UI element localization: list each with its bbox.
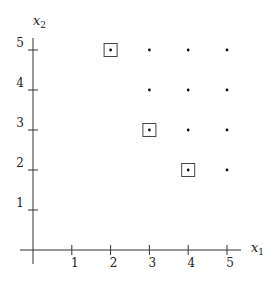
data-point bbox=[226, 129, 229, 132]
data-point bbox=[148, 89, 151, 92]
y-axis-label: x2 bbox=[33, 13, 46, 30]
x-tick-label: 4 bbox=[187, 256, 195, 270]
data-point bbox=[187, 49, 190, 52]
data-point bbox=[226, 49, 229, 52]
data-point bbox=[187, 129, 190, 132]
x-tick-label: 1 bbox=[71, 256, 79, 270]
x-tick-label: 5 bbox=[226, 256, 234, 270]
y-tick-label: 2 bbox=[16, 156, 24, 170]
axes bbox=[20, 38, 241, 264]
data-points bbox=[104, 44, 228, 177]
data-point bbox=[148, 129, 151, 132]
data-point bbox=[187, 89, 190, 92]
data-point bbox=[148, 49, 151, 52]
scatter-chart: 1234512345 x1 x2 bbox=[0, 0, 278, 282]
x-axis-label: x1 bbox=[251, 240, 264, 257]
ticks: 1234512345 bbox=[16, 36, 234, 270]
y-tick-label: 1 bbox=[16, 196, 24, 210]
data-point bbox=[226, 169, 229, 172]
x-tick-label: 3 bbox=[149, 256, 157, 270]
y-tick-label: 5 bbox=[16, 36, 24, 50]
data-point bbox=[226, 89, 229, 92]
y-tick-label: 4 bbox=[16, 76, 24, 90]
data-point bbox=[109, 49, 112, 52]
x-tick-label: 2 bbox=[110, 256, 118, 270]
data-point bbox=[187, 169, 190, 172]
y-tick-label: 3 bbox=[16, 116, 24, 130]
